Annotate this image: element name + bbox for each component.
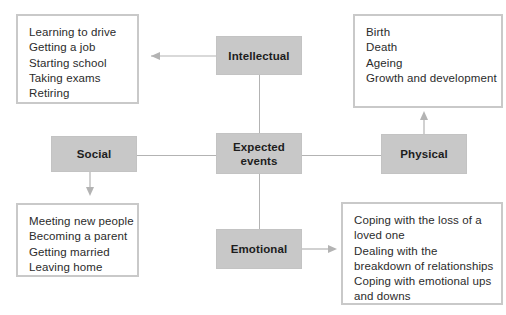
list-item: Death [366,40,491,55]
node-label: Emotional [231,242,288,256]
list-item: Getting married [29,245,127,260]
arrow-physical-to-examples [420,111,428,134]
list-item: breakdown of relationships [354,259,491,274]
node-label: Intellectual [228,49,289,63]
node-label: Expected events [233,140,285,168]
list-item: Coping with emotional ups [354,274,491,289]
list-item: Retiring [29,86,127,101]
expected-events-diagram: Learning to drive Getting a job Starting… [0,0,506,315]
list-item: Leaving home [29,260,127,275]
connector-intellectual-to-center [259,75,260,133]
node-physical: Physical [381,134,467,174]
node-emotional: Emotional [216,229,302,269]
arrow-social-to-examples [86,172,94,196]
list-item: loved one [354,228,491,243]
node-label: Social [77,147,111,161]
list-item: Starting school [29,56,127,71]
node-intellectual: Intellectual [216,36,302,75]
social-examples-box: Meeting new people Becoming a parent Get… [16,203,139,277]
intellectual-examples-box: Learning to drive Getting a job Starting… [16,14,139,104]
list-item: Birth [366,25,491,40]
list-item: Dealing with the [354,244,491,259]
list-item: Learning to drive [29,25,127,40]
physical-examples-box: Birth Death Ageing Growth and developmen… [353,14,503,108]
list-item: Ageing [366,56,491,71]
connector-social-to-center [137,155,216,156]
list-item: Meeting new people [29,214,127,229]
node-label-line1: Expected [233,141,285,153]
list-item: Coping with the loss of a [354,213,491,228]
list-item: and downs [354,289,491,304]
list-item: Growth and development [366,71,491,86]
node-label: Physical [400,147,447,161]
list-item: Getting a job [29,40,127,55]
node-social: Social [51,136,137,172]
node-expected-events: Expected events [216,133,302,174]
connector-center-to-physical [302,155,381,156]
connector-center-to-emotional [259,174,260,229]
list-item: Taking exams [29,71,127,86]
list-item: Becoming a parent [29,229,127,244]
arrow-intellectual-to-examples [151,52,216,60]
arrow-emotional-to-examples [302,245,337,253]
node-label-line2: events [240,155,277,167]
emotional-examples-box: Coping with the loss of a loved one Deal… [341,202,503,305]
